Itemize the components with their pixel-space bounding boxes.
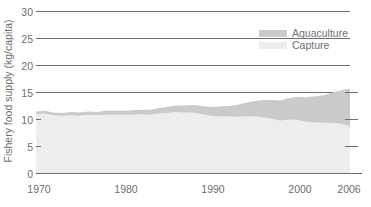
area-capture bbox=[36, 112, 350, 174]
y-tick-label-5: 5 bbox=[27, 141, 33, 153]
y-tick-label-25: 25 bbox=[21, 33, 33, 45]
legend-swatch-aquaculture bbox=[259, 30, 287, 37]
y-axis-tick-labels: 30 25 20 15 10 5 0 bbox=[21, 6, 33, 180]
y-tick-label-10: 10 bbox=[21, 114, 33, 126]
chart-canvas: 30 25 20 15 10 5 0 1970 1980 1990 2000 2… bbox=[0, 0, 371, 207]
y-tick-label-30: 30 bbox=[21, 6, 33, 18]
x-tick-label-1990: 1990 bbox=[201, 183, 225, 195]
x-tick-label-2006: 2006 bbox=[337, 183, 361, 195]
x-axis-tick-labels: 1970 1980 1990 2000 2006 bbox=[27, 183, 361, 195]
y-tick-label-0: 0 bbox=[27, 168, 33, 180]
legend-label-aquaculture: Aquaculture bbox=[292, 27, 348, 39]
y-axis-title: Fishery food supply (kg/capita) bbox=[2, 20, 14, 163]
x-tick-label-1980: 1980 bbox=[114, 183, 138, 195]
legend-label-capture: Capture bbox=[292, 39, 330, 51]
y-tick-label-20: 20 bbox=[21, 60, 33, 72]
fishery-food-supply-chart: 30 25 20 15 10 5 0 1970 1980 1990 2000 2… bbox=[0, 0, 371, 207]
y-tick-label-15: 15 bbox=[21, 87, 33, 99]
x-tick-label-1970: 1970 bbox=[27, 183, 51, 195]
legend-swatch-capture bbox=[259, 42, 287, 49]
x-tick-label-2000: 2000 bbox=[288, 183, 312, 195]
